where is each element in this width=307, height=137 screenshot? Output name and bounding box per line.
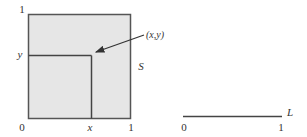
square-y-label: y xyxy=(17,48,23,60)
diagram-canvas: 1 y 0 x 1 (x,y) S 0 1 L xyxy=(0,0,307,137)
unit-square-s xyxy=(29,15,131,119)
line-name-label: L xyxy=(286,106,293,118)
square-x-max-label: 1 xyxy=(128,121,134,133)
square-origin-label: 0 xyxy=(19,121,25,133)
square-x-label: x xyxy=(87,121,93,133)
square-name-label: S xyxy=(138,60,144,72)
point-label: (x,y) xyxy=(146,29,165,41)
line-start-label: 0 xyxy=(181,121,187,133)
line-end-label: 1 xyxy=(278,121,284,133)
square-y-max-label: 1 xyxy=(19,3,25,15)
